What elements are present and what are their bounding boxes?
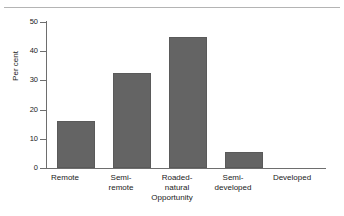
y-tick-label-30: 30 (18, 76, 38, 84)
x-axis-title: Opportunity (0, 194, 344, 202)
y-tick-label-50: 50 (18, 18, 38, 26)
y-tick-0 (40, 168, 46, 169)
page-top-rule (4, 7, 340, 8)
x-tick-label-semi-remote: Semi- remote (93, 173, 149, 192)
bar-roaded-natural (169, 37, 207, 168)
x-tick-label-roaded-natural: Roaded- natural (149, 173, 205, 192)
bar-semi-developed (225, 152, 263, 168)
y-tick-label-10: 10 (18, 135, 38, 143)
bar-semi-remote (113, 73, 151, 168)
bar-remote (57, 121, 95, 168)
bar-chart-figure: 50 40 30 20 10 0 Per cent Remote Semi- r… (0, 0, 344, 216)
y-tick-label-0: 0 (18, 164, 38, 172)
y-tick-label-40: 40 (18, 47, 38, 55)
y-tick-label-20: 20 (18, 106, 38, 114)
y-axis-title: Per cent (12, 36, 20, 96)
x-tick-label-developed: Developed (261, 173, 323, 183)
x-axis-line (46, 168, 326, 169)
plot-area (46, 22, 326, 168)
x-tick-label-semi-developed: Semi- developed (205, 173, 261, 192)
x-tick-label-remote: Remote (37, 173, 93, 183)
